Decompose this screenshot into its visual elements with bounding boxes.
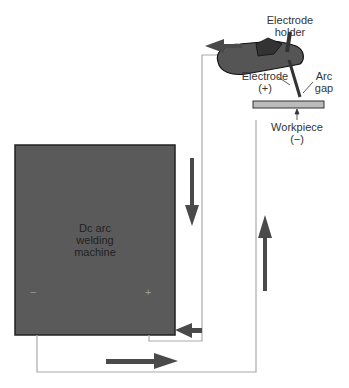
positive-terminal: + [145,286,151,298]
welding-circuit-diagram [0,0,349,388]
machine-label: Dc arc welding machine [65,222,125,258]
arc-gap-label: Arc gap [312,70,336,94]
workpiece-label: Workpiece (−) [265,121,329,145]
workpiece-label-1: Workpiece [265,121,329,133]
negative-terminal: − [30,286,36,298]
workpiece-label-2: (−) [265,133,329,145]
arc-gap-label-2: gap [312,82,336,94]
electrode-label: Electrode (+) [240,70,290,94]
machine-label-line1: Dc arc [65,222,125,234]
electrode-holder-label: Electrode holder [255,14,325,38]
arc-gap-label-1: Arc [312,70,336,82]
electrode-holder-label-2: holder [255,26,325,38]
machine-label-line3: machine [65,246,125,258]
workpiece [253,101,324,108]
machine-label-line2: welding [65,234,125,246]
electrode-label-1: Electrode [240,70,290,82]
electrode-label-2: (+) [240,82,290,94]
electrode-holder-label-1: Electrode [255,14,325,26]
